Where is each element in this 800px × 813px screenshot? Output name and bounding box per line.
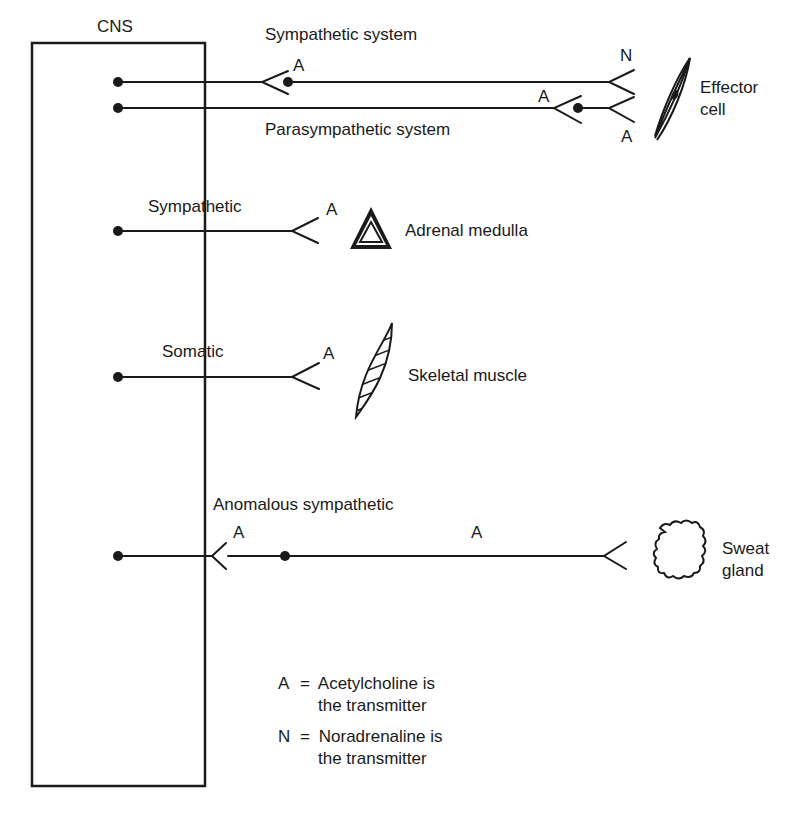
cell-body-dot — [283, 77, 293, 87]
legend-item-noradrenaline: N= Noradrenaline is the transmitter — [278, 726, 443, 770]
transmitter-mark: A — [621, 128, 632, 145]
synapse-fork-icon — [292, 363, 319, 389]
cell-body-dot — [113, 226, 123, 236]
parasympathetic-system-pathway — [118, 96, 634, 123]
cns-label: CNS — [97, 18, 133, 35]
effector-cell-icon — [655, 58, 690, 140]
cell-body-dot — [113, 103, 123, 113]
transmitter-mark: A — [323, 345, 334, 362]
sympathetic-adrenal-label: Sympathetic — [148, 198, 242, 215]
cell-body-dot — [280, 551, 290, 561]
sympathetic-adrenal-pathway — [118, 218, 318, 243]
synapse-fork-icon — [604, 542, 626, 569]
cell-body-dot — [113, 551, 123, 561]
anomalous-sympathetic-pathway — [118, 542, 626, 569]
somatic-pathway — [118, 363, 319, 389]
cell-body-dot — [113, 77, 123, 87]
synapse-fork-icon — [292, 218, 318, 243]
synapse-fork-icon — [609, 97, 634, 122]
sympathetic-system-label: Sympathetic system — [265, 26, 417, 43]
synapse-fork-icon — [212, 543, 226, 569]
cell-body-dot — [573, 103, 583, 113]
parasympathetic-system-label: Parasympathetic system — [265, 121, 450, 138]
legend-item-acetylcholine: A= Acetylcholine is the transmitter — [278, 673, 435, 717]
somatic-label: Somatic — [162, 343, 223, 360]
effector-cell-label: Effector cell — [700, 77, 758, 121]
transmitter-mark: A — [538, 88, 549, 105]
adrenal-medulla-icon — [350, 207, 392, 249]
transmitter-mark: A — [471, 524, 482, 541]
sweat-gland-icon — [654, 521, 706, 579]
cns-box — [32, 43, 205, 786]
adrenal-medulla-label: Adrenal medulla — [405, 222, 528, 239]
anomalous-sympathetic-label: Anomalous sympathetic — [213, 496, 393, 513]
transmitter-mark: A — [326, 201, 337, 218]
transmitter-mark: A — [233, 524, 244, 541]
cell-body-dot — [113, 372, 123, 382]
sympathetic-system-pathway — [118, 70, 634, 94]
sweat-gland-label: Sweat gland — [722, 538, 769, 582]
transmitter-mark: N — [620, 47, 632, 64]
synapse-fork-icon — [609, 70, 634, 94]
skeletal-muscle-icon — [340, 322, 400, 429]
transmitter-mark: A — [293, 57, 304, 74]
neuron-cell-bodies — [113, 77, 583, 561]
skeletal-muscle-label: Skeletal muscle — [408, 367, 527, 384]
